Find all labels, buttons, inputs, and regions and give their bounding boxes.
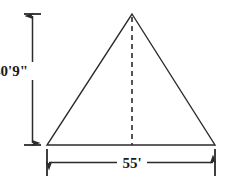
diagram-canvas: 40'9" 55'	[0, 0, 228, 181]
triangle-dimension-figure: 40'9" 55'	[0, 0, 228, 181]
triangle-outline	[47, 14, 215, 145]
height-dimension-label: 40'9"	[0, 63, 28, 79]
base-dimension-label: 55'	[122, 155, 141, 171]
